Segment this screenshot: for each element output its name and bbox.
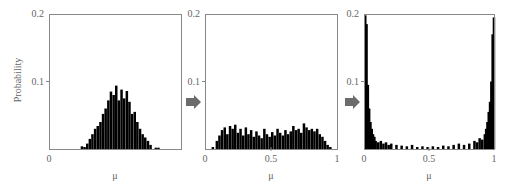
histogram-bar bbox=[463, 145, 466, 149]
arrow-right-icon bbox=[345, 95, 360, 109]
histogram-bar bbox=[442, 146, 445, 149]
x-axis-label: μ bbox=[426, 170, 431, 181]
arrow-right-icon bbox=[186, 95, 201, 109]
histogram-bar bbox=[290, 131, 293, 149]
histogram-bar bbox=[447, 146, 450, 149]
histogram-bar bbox=[390, 144, 393, 149]
histogram-bar bbox=[91, 134, 94, 149]
histogram-bar bbox=[292, 126, 295, 149]
arrow-1 bbox=[186, 95, 201, 109]
histogram-bar bbox=[406, 146, 409, 149]
histogram-bar bbox=[86, 144, 89, 149]
histogram-bar bbox=[245, 127, 248, 149]
histogram-bar bbox=[303, 123, 306, 149]
histogram-bar bbox=[380, 141, 383, 149]
histogram-bar bbox=[400, 146, 403, 149]
histogram-bar bbox=[458, 144, 461, 149]
histogram-bar bbox=[255, 131, 258, 149]
y-tick-label: 0.2 bbox=[347, 8, 360, 19]
histogram-bar bbox=[387, 145, 390, 149]
plot-frame bbox=[365, 15, 495, 150]
histogram-bar bbox=[144, 138, 147, 150]
panel-1: 0.20.10μ bbox=[32, 8, 182, 181]
histogram-bar bbox=[260, 138, 263, 149]
x-tick-label: 1 bbox=[335, 153, 340, 164]
histogram-bar bbox=[295, 130, 298, 149]
arrow-2 bbox=[345, 95, 360, 109]
histogram-bar bbox=[218, 136, 221, 150]
histogram-bar bbox=[234, 125, 237, 149]
histogram-bar bbox=[221, 130, 224, 149]
histogram-bar bbox=[149, 145, 152, 149]
histogram-bar bbox=[83, 147, 86, 149]
histogram-bar bbox=[141, 134, 144, 149]
y-tick-label: 0.1 bbox=[347, 76, 360, 87]
histogram-bar bbox=[247, 134, 250, 149]
x-tick-label: 0 bbox=[203, 153, 208, 164]
histogram-bar bbox=[131, 114, 134, 149]
histogram-bar bbox=[224, 127, 227, 149]
histogram-bar bbox=[226, 134, 229, 149]
x-tick-label: 0.5 bbox=[265, 153, 278, 164]
histogram-bar bbox=[282, 136, 285, 150]
histogram-bar bbox=[385, 142, 388, 149]
x-tick-label: 1 bbox=[492, 153, 497, 164]
histogram-bar bbox=[212, 147, 215, 149]
histogram-bar bbox=[324, 141, 327, 149]
histogram-bar bbox=[134, 112, 137, 149]
histogram-bar bbox=[478, 138, 481, 149]
histogram-bar bbox=[128, 102, 131, 149]
histogram-bar bbox=[326, 145, 329, 149]
histogram-bars bbox=[364, 15, 495, 149]
histogram-bar bbox=[139, 129, 142, 149]
histogram-bar bbox=[421, 146, 424, 149]
histogram-bar bbox=[432, 146, 435, 149]
histogram-bars bbox=[81, 86, 160, 150]
histogram-bar bbox=[89, 139, 92, 149]
histogram-bar bbox=[329, 147, 332, 149]
x-tick-label: 0 bbox=[47, 153, 52, 164]
histogram-bar bbox=[104, 109, 107, 150]
histogram-bar bbox=[253, 137, 256, 149]
histogram-bar bbox=[97, 126, 100, 149]
histogram-bar bbox=[279, 133, 282, 149]
histogram-bar bbox=[313, 131, 316, 149]
histogram-bar bbox=[411, 145, 414, 149]
y-tick-label: 0.2 bbox=[32, 8, 45, 19]
histogram-bar bbox=[115, 86, 118, 149]
histogram-bar bbox=[476, 142, 479, 149]
y-tick-label: 0.1 bbox=[32, 76, 45, 87]
histogram-bar bbox=[468, 144, 471, 149]
histogram-bar bbox=[231, 129, 234, 149]
histogram-bar bbox=[284, 130, 287, 149]
y-axis-label: Probability bbox=[12, 58, 23, 102]
histogram-bars bbox=[212, 123, 332, 149]
histogram-bar bbox=[155, 148, 158, 149]
histogram-bar bbox=[123, 98, 126, 149]
x-tick-label: 0 bbox=[362, 153, 367, 164]
histogram-bar bbox=[242, 136, 245, 150]
histogram-bar bbox=[112, 95, 115, 149]
histogram-figure: Probability 0.20.10μ 0.20.100.51μ 0.20.1… bbox=[0, 0, 512, 186]
histogram-bar bbox=[126, 91, 129, 149]
histogram-bar bbox=[437, 147, 440, 149]
histogram-bar bbox=[250, 130, 253, 149]
y-tick-label: 0.1 bbox=[188, 76, 201, 87]
histogram-bar bbox=[110, 92, 113, 149]
histogram-bar bbox=[136, 122, 139, 149]
histogram-bar bbox=[120, 90, 123, 149]
histogram-bar bbox=[305, 127, 308, 149]
y-tick-label: 0.2 bbox=[188, 8, 201, 19]
histogram-bar bbox=[481, 140, 484, 149]
histogram-bar bbox=[395, 145, 398, 149]
histogram-bar bbox=[276, 129, 279, 149]
histogram-bar bbox=[297, 129, 300, 149]
histogram-bar bbox=[118, 100, 121, 149]
panel-2: 0.20.100.51μ bbox=[188, 8, 340, 181]
panel-3: 0.20.100.51μ bbox=[347, 8, 497, 181]
histogram-bar bbox=[157, 148, 160, 149]
histogram-bar bbox=[382, 144, 385, 149]
histogram-bar bbox=[216, 141, 219, 149]
histogram-bar bbox=[300, 133, 303, 149]
histogram-bar bbox=[237, 133, 240, 149]
